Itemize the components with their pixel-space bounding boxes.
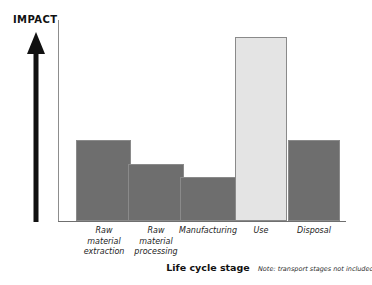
x-axis-title: Life cycle stage [148,262,268,273]
bar-use [235,37,287,221]
life-cycle-impact-chart: IMPACT Raw material extraction Raw mater… [0,0,372,285]
bar-raw-material-extraction [76,140,131,221]
chart-footnote: Note: transport stages not included [258,265,372,273]
bar-disposal [288,140,340,221]
x-tick-label-disposal: Disposal [283,226,345,237]
bar-manufacturing [180,177,236,221]
bar-raw-material-processing [128,164,184,221]
